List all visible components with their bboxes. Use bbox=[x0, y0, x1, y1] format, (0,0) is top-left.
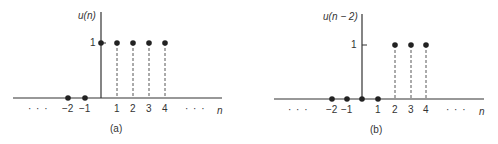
y-axis-label: u(n − 2) bbox=[323, 12, 358, 22]
x-tick-label-neg1: −1 bbox=[341, 105, 352, 115]
caption-a: (a) bbox=[110, 124, 122, 134]
x-tick-label-neg1: −1 bbox=[79, 104, 90, 114]
ellipsis-left: · · · bbox=[288, 105, 309, 115]
ellipsis-right: · · · bbox=[185, 104, 206, 114]
panel-a-unit-step: u(n) 1 · · · −2 −1 1 2 3 4 · · · n (a) bbox=[0, 0, 250, 144]
x-axis-label: n bbox=[217, 106, 223, 116]
data-points bbox=[65, 40, 168, 101]
caption-b: (b) bbox=[370, 125, 382, 135]
ellipsis-right: · · · bbox=[446, 105, 467, 115]
x-tick-label-2: 2 bbox=[392, 105, 398, 115]
x-tick-label-1: 1 bbox=[375, 105, 381, 115]
x-tick-label-1: 1 bbox=[114, 104, 120, 114]
x-tick-label-neg2: −2 bbox=[326, 105, 337, 115]
ellipsis-left: · · · bbox=[28, 104, 49, 114]
stems bbox=[117, 43, 165, 98]
panel-b-shifted-unit-step: u(n − 2) 1 · · · −2 −1 1 2 3 4 · · · n (… bbox=[250, 0, 498, 144]
y-tick-label-1: 1 bbox=[351, 40, 357, 50]
x-tick-label-4: 4 bbox=[162, 104, 168, 114]
x-tick-label-4: 4 bbox=[423, 105, 429, 115]
x-tick-label-2: 2 bbox=[130, 104, 136, 114]
y-axis-label: u(n) bbox=[78, 11, 96, 21]
x-tick-label-neg2: −2 bbox=[62, 104, 73, 114]
x-tick-label-3: 3 bbox=[408, 105, 414, 115]
unit-step-plot bbox=[0, 0, 250, 144]
data-points bbox=[329, 42, 429, 102]
x-axis-label: n bbox=[479, 107, 485, 117]
stems bbox=[395, 45, 426, 99]
shifted-unit-step-plot bbox=[250, 0, 498, 144]
y-tick-label-1: 1 bbox=[90, 38, 96, 48]
x-tick-label-3: 3 bbox=[146, 104, 152, 114]
